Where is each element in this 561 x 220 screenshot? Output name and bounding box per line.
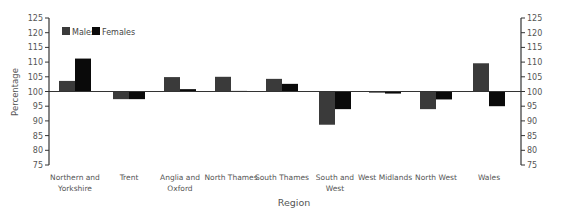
bar-males (164, 77, 180, 91)
x-category-label: Northern and (50, 173, 100, 182)
x-category-label: Yorkshire (57, 184, 92, 193)
right-y-tick-label: 85 (527, 132, 537, 141)
bar-females (335, 92, 351, 110)
x-category-label: South Thames (255, 173, 309, 182)
legend-label-females: Females (102, 28, 135, 37)
y-axis-title: Percentage (10, 68, 20, 116)
right-y-axis: 7580859095100105110115120125 (521, 14, 542, 170)
bar-females (75, 59, 91, 92)
left-y-axis: 7580859095100105110115120125 (28, 14, 49, 170)
x-axis-title: Region (278, 197, 311, 208)
left-y-tick-label: 75 (33, 161, 43, 170)
bar-males (113, 92, 129, 100)
left-y-tick-label: 85 (33, 132, 43, 141)
x-category-label: West (326, 184, 344, 193)
right-y-tick-label: 95 (527, 102, 537, 111)
x-category-label: North West (415, 173, 457, 182)
legend-swatch-females (92, 27, 100, 35)
left-y-tick-label: 120 (28, 29, 43, 38)
bar-males (215, 77, 231, 92)
bar-females (129, 92, 145, 100)
x-category-label: Wales (478, 173, 500, 182)
bar-chart: 7580859095100105110115120125 75808590951… (0, 0, 561, 220)
right-y-tick-label: 100 (527, 88, 542, 97)
x-category-label: South and (316, 173, 355, 182)
legend: Males Females (62, 27, 135, 37)
left-y-tick-label: 90 (33, 117, 43, 126)
left-y-tick-label: 80 (33, 146, 43, 155)
right-y-tick-label: 80 (527, 146, 537, 155)
left-y-tick-label: 115 (28, 43, 43, 52)
left-y-tick-label: 105 (28, 73, 43, 82)
right-y-tick-label: 110 (527, 58, 542, 67)
right-y-tick-label: 120 (527, 29, 542, 38)
right-y-tick-label: 125 (527, 14, 542, 23)
x-axis-category-labels: Northern andYorkshireTrentAnglia andOxfo… (50, 173, 500, 193)
x-category-label: Anglia and (160, 173, 200, 182)
x-category-label: Trent (119, 173, 139, 182)
right-y-tick-label: 90 (527, 117, 537, 126)
left-y-tick-label: 100 (28, 88, 43, 97)
bar-males (59, 81, 75, 92)
legend-swatch-males (62, 27, 70, 35)
right-y-tick-label: 75 (527, 161, 537, 170)
bar-males (473, 63, 489, 91)
bar-females (282, 84, 298, 92)
right-y-tick-label: 105 (527, 73, 542, 82)
x-category-label: West Midlands (358, 173, 412, 182)
left-y-tick-label: 110 (28, 58, 43, 67)
left-y-tick-label: 125 (28, 14, 43, 23)
bar-males (319, 92, 335, 125)
bar-females (489, 92, 505, 107)
x-category-label: Oxford (167, 184, 193, 193)
x-category-label: North Thames (204, 173, 257, 182)
left-y-tick-label: 95 (33, 102, 43, 111)
legend-label-males: Males (72, 28, 95, 37)
bar-males (420, 92, 436, 110)
bar-males (266, 79, 282, 92)
right-y-tick-label: 115 (527, 43, 542, 52)
bar-females (436, 92, 452, 100)
